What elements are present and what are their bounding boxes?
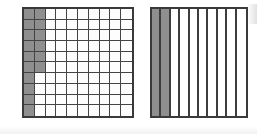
grid-cell [35, 9, 46, 20]
grid-cell [46, 52, 57, 63]
grid-cell [67, 41, 78, 52]
grid-cell [67, 105, 78, 116]
grid-cell [67, 95, 78, 106]
grid-cell [89, 62, 100, 73]
strip-cell [190, 9, 199, 116]
grid-cell [110, 95, 121, 106]
scan-artifact-top-right [247, 4, 257, 24]
grid-cell [78, 20, 89, 31]
grid-cell [67, 73, 78, 84]
grid-cell [78, 62, 89, 73]
grid-cell [35, 105, 46, 116]
grid-cell [35, 30, 46, 41]
grid-cell [56, 84, 67, 95]
grid-cell [35, 41, 46, 52]
grid-cell [67, 20, 78, 31]
grid-cell [100, 105, 111, 116]
grid-cell [56, 30, 67, 41]
grid-cell [110, 30, 121, 41]
grid-cell [121, 52, 132, 63]
grid-cell [110, 52, 121, 63]
grid-cell [89, 95, 100, 106]
grid-cell [110, 20, 121, 31]
grid-cell [56, 105, 67, 116]
grid-cell [121, 73, 132, 84]
grid-cell [24, 95, 35, 106]
grid-cell [56, 52, 67, 63]
grid-cell [78, 105, 89, 116]
grid-cell [24, 73, 35, 84]
grid-cell [56, 41, 67, 52]
grid-cell [24, 62, 35, 73]
grid-cell [67, 9, 78, 20]
grid-cell [67, 30, 78, 41]
grid-cell [100, 73, 111, 84]
grid-cell [100, 52, 111, 63]
strip-cell [227, 9, 236, 116]
grid-cell [46, 84, 57, 95]
grid-cell [78, 52, 89, 63]
strip-cell [208, 9, 217, 116]
grid-cell [89, 105, 100, 116]
grid-cell [78, 73, 89, 84]
strip-cell [171, 9, 180, 116]
grid-cell [89, 20, 100, 31]
grid-cell [24, 52, 35, 63]
strip-cell [152, 9, 161, 116]
grid-cell [24, 84, 35, 95]
grid-cell [121, 95, 132, 106]
grid-cell [35, 95, 46, 106]
strip-cell [199, 9, 208, 116]
grid-cell [46, 95, 57, 106]
grid-cell [110, 84, 121, 95]
grid-cell [89, 30, 100, 41]
grid-cell [35, 20, 46, 31]
grid-cell [89, 84, 100, 95]
strip-cell [237, 9, 246, 116]
grid-cell [35, 84, 46, 95]
grid-cell [100, 41, 111, 52]
tenths-strips-figure [150, 7, 248, 118]
grid-cell [35, 73, 46, 84]
grid-cell [100, 9, 111, 20]
grid-cell [121, 9, 132, 20]
grid-cell [100, 62, 111, 73]
grid-cell [121, 105, 132, 116]
grid-cell [100, 20, 111, 31]
scan-artifact-bottom [0, 126, 257, 134]
grid-cell [35, 62, 46, 73]
grid-cell [121, 30, 132, 41]
grid-cell [100, 95, 111, 106]
grid-cell [46, 41, 57, 52]
grid-cell [24, 20, 35, 31]
grid-cell [67, 62, 78, 73]
grid-cell [78, 9, 89, 20]
grid-cell [56, 95, 67, 106]
grid-cell [56, 20, 67, 31]
grid-cell [78, 41, 89, 52]
grid-cell [89, 41, 100, 52]
grid-cell [46, 9, 57, 20]
grid-cell [89, 52, 100, 63]
grid-cell [78, 84, 89, 95]
grid-cell [110, 41, 121, 52]
grid-cell [56, 73, 67, 84]
grid-cell [46, 30, 57, 41]
grid-cell [35, 52, 46, 63]
grid-cell [121, 41, 132, 52]
grid-cell [110, 73, 121, 84]
grid-cell [56, 9, 67, 20]
grid-cell [46, 62, 57, 73]
diagram-canvas [0, 0, 257, 134]
grid-cell [46, 20, 57, 31]
grid-cell [24, 105, 35, 116]
strip-cell [218, 9, 227, 116]
grid-cell [56, 62, 67, 73]
strip-cell [161, 9, 170, 116]
grid-cell [89, 9, 100, 20]
grid-cell [110, 62, 121, 73]
grid-cell [24, 30, 35, 41]
grid-cell [24, 9, 35, 20]
grid-cell [110, 9, 121, 20]
grid-cell [24, 41, 35, 52]
